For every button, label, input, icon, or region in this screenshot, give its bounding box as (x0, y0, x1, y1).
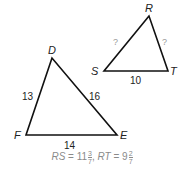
vertex-d-label: D (48, 44, 56, 56)
vertex-e-label: E (120, 129, 128, 141)
side-de-label: 16 (89, 91, 101, 102)
rt-label: RT (98, 151, 111, 162)
rt-numerator: 2 (129, 150, 133, 158)
side-df-label: 13 (22, 91, 34, 102)
vertex-f-label: F (14, 129, 22, 141)
rt-equals-whole: = 9 (111, 151, 128, 162)
rs-equals-whole: = 11 (65, 151, 87, 162)
vertex-t-label: T (170, 65, 178, 77)
side-st-label: 10 (130, 75, 142, 86)
diagram-canvas: D F E 13 16 14 R S T ? ? 10 (0, 0, 184, 172)
answer-caption: RS = 1137, RT = 927 (0, 150, 184, 165)
triangle-def (26, 58, 117, 135)
rt-denominator: 7 (129, 158, 133, 165)
vertex-r-label: R (145, 2, 153, 14)
side-rt-unknown-label: ? (162, 37, 167, 47)
side-rs-unknown-label: ? (113, 37, 118, 47)
rt-fraction: 27 (129, 150, 133, 165)
rs-label: RS (51, 151, 65, 162)
vertex-s-label: S (91, 65, 99, 77)
